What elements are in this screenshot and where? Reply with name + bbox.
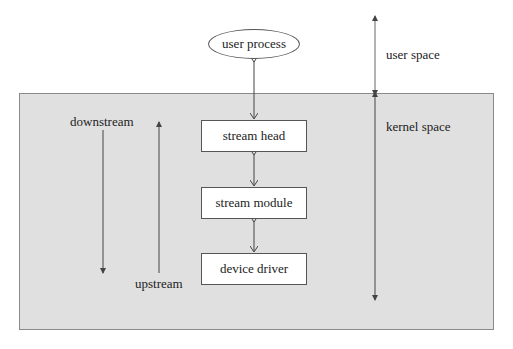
device-driver-node: device driver [201,253,307,285]
stream-module-node: stream module [201,187,307,219]
stream-head-label: stream head [223,128,285,144]
user-space-label: user space [386,47,440,63]
upstream-label: upstream [135,276,183,292]
user-process-label: user process [222,36,286,52]
stream-head-node: stream head [201,120,307,152]
stream-module-label: stream module [216,195,293,211]
device-driver-label: device driver [220,261,288,277]
kernel-space-label: kernel space [386,119,451,135]
user-process-node: user process [208,29,300,59]
downstream-label: downstream [70,114,134,130]
